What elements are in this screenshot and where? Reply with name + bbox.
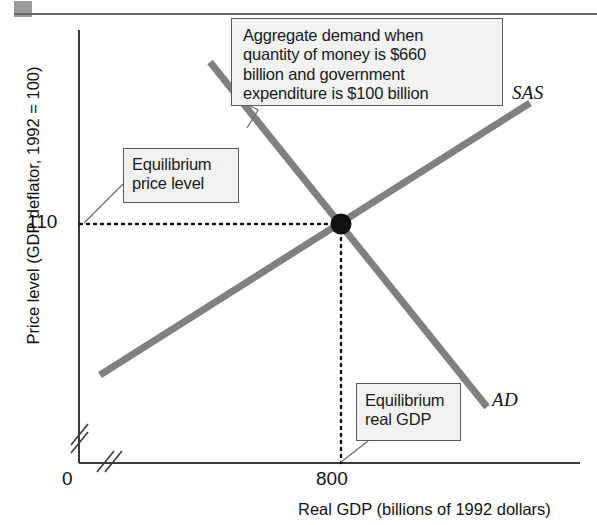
x-axis-break-icon bbox=[97, 451, 122, 472]
callout-gdp-line-2: real GDP bbox=[365, 410, 460, 429]
callout-ad-line-4: expenditure is $100 billion bbox=[243, 84, 492, 103]
callout-equilibrium-real-gdp: Equilibrium real GDP bbox=[356, 383, 461, 441]
callout-gdp-line-1: Equilibrium bbox=[365, 391, 460, 410]
callout-aggregate-demand: Aggregate demand when quantity of money … bbox=[231, 18, 503, 106]
callout-equilibrium-price-level: Equilibrium price level bbox=[123, 148, 239, 203]
economics-figure-ad-sas: Aggregate demand when quantity of money … bbox=[0, 0, 597, 525]
x-axis-tick-800: 800 bbox=[316, 468, 348, 490]
equilibrium-point-dot bbox=[331, 214, 352, 235]
ad-curve bbox=[210, 62, 487, 407]
y-axis-title: Price level (GDP deflator, 1992 = 100) bbox=[24, 21, 43, 391]
gdp-callout-leader-line bbox=[341, 441, 368, 462]
price-callout-leader-line bbox=[84, 184, 123, 223]
callout-ad-line-3: billion and government bbox=[243, 65, 492, 84]
origin-label: 0 bbox=[62, 468, 73, 490]
sas-curve-label: SAS bbox=[512, 82, 544, 104]
sas-curve bbox=[100, 103, 530, 375]
callout-price-line-2: price level bbox=[132, 174, 238, 193]
ad-curve-label: AD bbox=[492, 389, 518, 411]
callout-ad-line-2: quantity of money is $660 bbox=[243, 45, 492, 64]
x-axis-title: Real GDP (billions of 1992 dollars) bbox=[298, 500, 551, 519]
callout-price-line-1: Equilibrium bbox=[132, 155, 238, 174]
callout-ad-line-1: Aggregate demand when bbox=[243, 26, 492, 45]
